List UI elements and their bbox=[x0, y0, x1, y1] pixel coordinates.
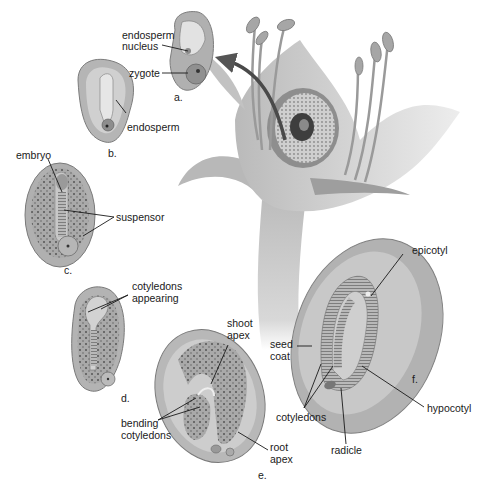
label-seed-coat-line2: coat bbox=[270, 350, 290, 362]
label-seed-coat-line1: seed bbox=[270, 338, 293, 350]
label-cotyledons-appearing-line2: appearing bbox=[132, 292, 179, 304]
stage-c-seed bbox=[25, 163, 95, 267]
stage-b-seed bbox=[78, 59, 134, 142]
label-radicle: radicle bbox=[331, 444, 362, 456]
label-root-apex-line1: root bbox=[270, 441, 288, 453]
anthers bbox=[244, 15, 396, 75]
stage-label-a: a. bbox=[174, 91, 183, 103]
label-endosperm-nucleus-line2: nucleus bbox=[122, 40, 158, 52]
label-root-apex-line2: apex bbox=[270, 453, 293, 465]
label-bending-cotyledons-line2: cotyledons bbox=[121, 429, 171, 441]
label-hypocotyl: hypocotyl bbox=[427, 402, 471, 414]
embryo-sac-center bbox=[299, 119, 309, 131]
stage-label-f: f. bbox=[412, 373, 418, 385]
stage-label-d: d. bbox=[121, 392, 130, 404]
stage-label-b: b. bbox=[108, 147, 117, 159]
label-suspensor: suspensor bbox=[116, 211, 164, 223]
seed-development-diagram: endosperm nucleus zygote a. endosperm b.… bbox=[0, 0, 483, 491]
stage-label-e: e. bbox=[258, 469, 267, 481]
label-shoot-apex-line2: apex bbox=[227, 329, 250, 341]
label-shoot-apex-line1: shoot bbox=[227, 317, 253, 329]
label-cotyledons-appearing-line1: cotyledons bbox=[132, 280, 182, 292]
zygote-nucleus bbox=[196, 69, 200, 73]
zygote-cell bbox=[186, 64, 206, 84]
stage-a-ovule bbox=[170, 12, 213, 91]
stage-label-c: c. bbox=[64, 264, 72, 276]
label-embryo: embryo bbox=[16, 149, 51, 161]
label-zygote: zygote bbox=[129, 67, 160, 79]
label-endosperm: endosperm bbox=[127, 121, 180, 133]
label-cotyledons: cotyledons bbox=[276, 411, 326, 423]
stage-d-seed bbox=[72, 287, 125, 391]
diagram-canvas bbox=[0, 0, 483, 491]
label-bending-cotyledons-line1: bending bbox=[121, 417, 158, 429]
label-epicotyl: epicotyl bbox=[412, 244, 448, 256]
